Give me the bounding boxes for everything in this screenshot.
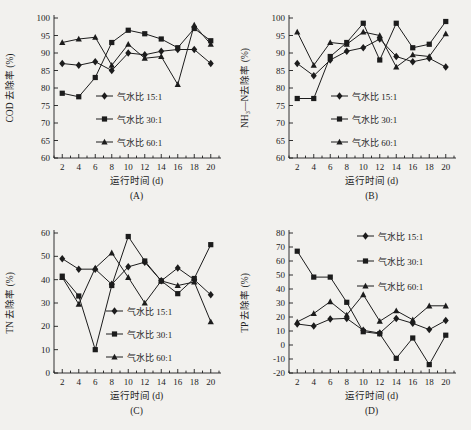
series-diamond <box>59 255 213 299</box>
legend-entry: 气水比 30:1 <box>106 329 172 340</box>
square-marker-icon <box>311 275 316 280</box>
x-tick-label: 16 <box>408 162 418 172</box>
y-tick-label: 0 <box>46 368 51 378</box>
panel-label: (B) <box>365 191 378 202</box>
x-tick-label: 10 <box>359 162 369 172</box>
triangle-marker-icon <box>294 29 300 35</box>
square-marker-icon <box>112 331 117 336</box>
y-tick-label: 60 <box>276 256 286 266</box>
triangle-marker-icon <box>360 291 366 297</box>
diamond-marker-icon <box>344 47 350 55</box>
y-tick-label: 80 <box>276 228 286 238</box>
x-tick-label: 18 <box>190 377 200 387</box>
y-axis-label: TN 去除率 (%) <box>4 272 16 334</box>
legend: 气水比 15:1气水比 30:1气水比 60:1 <box>331 91 397 148</box>
x-tick-label: 18 <box>190 162 200 172</box>
y-tick-label: -10 <box>273 354 285 364</box>
legend-label: 气水比 15:1 <box>378 231 423 242</box>
square-marker-icon <box>142 31 147 36</box>
y-tick-label: 75 <box>41 101 51 111</box>
series-line <box>62 50 211 71</box>
panel-label: (D) <box>365 406 378 417</box>
diamond-marker-icon <box>59 255 65 263</box>
series-line <box>62 25 211 85</box>
four-panel-figure: 60657075808590951002468101214161820运行时间 … <box>0 0 471 430</box>
square-marker-icon <box>126 234 131 239</box>
y-axis: 0102030405060 <box>41 228 58 378</box>
chart-panel-D: -20-10010203040506070802468101214161820运… <box>235 215 470 430</box>
diamond-marker-icon <box>102 92 108 100</box>
x-tick-label: 6 <box>328 377 333 387</box>
y-tick-label: 30 <box>276 298 286 308</box>
y-tick-label: 70 <box>276 242 286 252</box>
y-tick-label: 85 <box>41 66 51 76</box>
triangle-marker-icon <box>92 34 98 40</box>
legend-entry: 气水比 15:1 <box>106 306 172 317</box>
y-tick-label: 90 <box>41 48 51 58</box>
legend-entry: 气水比 60:1 <box>106 352 172 363</box>
legend-label: 气水比 30:1 <box>378 256 423 267</box>
x-axis: 2468101214161820 <box>54 154 219 172</box>
square-marker-icon <box>443 19 448 24</box>
x-tick-label: 4 <box>312 377 317 387</box>
square-marker-icon <box>175 45 180 50</box>
square-marker-icon <box>427 42 432 47</box>
legend-entry: 气水比 30:1 <box>331 114 397 125</box>
chart-D-canvas: -20-10010203040506070802468101214161820运… <box>235 215 470 430</box>
square-marker-icon <box>175 291 180 296</box>
legend: 气水比 15:1气水比 30:1气水比 60:1 <box>106 306 172 363</box>
x-tick-label: 10 <box>359 377 369 387</box>
diamond-marker-icon <box>311 322 317 330</box>
diamond-marker-icon <box>112 307 118 315</box>
x-tick-label: 16 <box>173 162 183 172</box>
triangle-marker-icon <box>377 318 383 324</box>
square-marker-icon <box>311 96 316 101</box>
x-tick-label: 14 <box>392 162 402 172</box>
square-marker-icon <box>76 293 81 298</box>
y-axis: -20-1001020304050607080 <box>273 228 293 378</box>
y-tick-label: 70 <box>41 118 51 128</box>
y-tick-label: 40 <box>276 284 286 294</box>
x-tick-label: 2 <box>295 377 300 387</box>
diamond-marker-icon <box>327 315 333 323</box>
triangle-marker-icon <box>393 307 399 313</box>
legend-entry: 气水比 15:1 <box>331 91 397 102</box>
legend-label: 气水比 15:1 <box>117 91 162 102</box>
panel-label: (C) <box>130 406 143 417</box>
y-tick-label: 10 <box>276 326 286 336</box>
square-marker-icon <box>344 300 349 305</box>
x-axis: 2468101214161820 <box>289 154 454 172</box>
x-axis-label: 运行时间 (d) <box>110 175 163 187</box>
y-tick-label: 100 <box>272 13 286 23</box>
series-diamond <box>294 315 448 337</box>
y-axis-label: COD 去除率 (%) <box>4 53 16 122</box>
square-marker-icon <box>109 283 114 288</box>
triangle-marker-icon <box>410 52 416 58</box>
y-tick-label: 80 <box>41 83 51 93</box>
triangle-marker-icon <box>208 318 214 324</box>
legend-label: 气水比 30:1 <box>352 114 397 125</box>
x-tick-label: 18 <box>425 377 435 387</box>
y-axis-label: TP 去除率 (%) <box>239 273 251 333</box>
y-tick-label: 50 <box>276 270 286 280</box>
square-marker-icon <box>363 258 368 263</box>
x-tick-label: 14 <box>392 377 402 387</box>
square-marker-icon <box>361 21 366 26</box>
x-tick-label: 20 <box>206 162 216 172</box>
square-marker-icon <box>337 116 342 121</box>
x-tick-label: 4 <box>77 162 82 172</box>
legend-entry: 气水比 60:1 <box>96 137 162 148</box>
x-tick-label: 16 <box>173 377 183 387</box>
x-tick-label: 6 <box>93 162 98 172</box>
x-axis-label: 运行时间 (d) <box>345 390 398 402</box>
y-axis: 6065707580859095100 <box>37 13 59 163</box>
legend-label: 气水比 15:1 <box>127 306 172 317</box>
x-tick-label: 12 <box>140 377 149 387</box>
x-tick-label: 8 <box>345 162 350 172</box>
x-tick-label: 18 <box>425 162 435 172</box>
series-line <box>297 318 446 333</box>
square-marker-icon <box>394 21 399 26</box>
triangle-marker-icon <box>109 250 115 256</box>
y-tick-label: 0 <box>281 340 286 350</box>
x-tick-label: 8 <box>110 162 115 172</box>
